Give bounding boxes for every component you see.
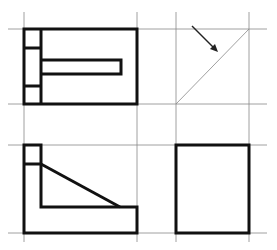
orthographic-drawing	[0, 0, 277, 250]
